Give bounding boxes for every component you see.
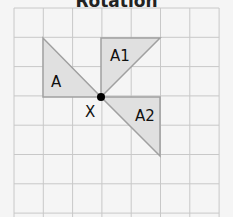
shape-a2 <box>101 97 160 156</box>
label-a: A <box>51 73 62 91</box>
rotation-diagram: A A1 A2 X <box>0 0 233 217</box>
label-center-x: X <box>85 103 95 121</box>
label-a1: A1 <box>110 47 130 65</box>
label-a2: A2 <box>135 107 155 125</box>
center-point <box>97 93 105 101</box>
